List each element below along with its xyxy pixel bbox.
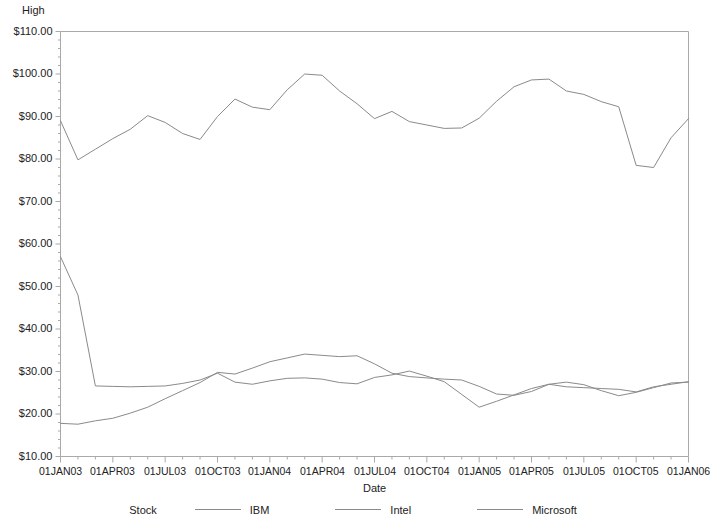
x-axis-tick-label: 01JUL04 bbox=[354, 465, 396, 477]
x-axis-tick-label: 01OCT05 bbox=[613, 465, 659, 477]
legend-line-swatch bbox=[195, 509, 241, 510]
y-axis-tick-label: $80.00 bbox=[0, 152, 53, 164]
legend-entry-microsoft[interactable]: Microsoft bbox=[477, 504, 577, 516]
y-axis-tick-label: $20.00 bbox=[0, 407, 53, 419]
x-axis-tick-label: 01APR04 bbox=[300, 465, 345, 477]
legend-title: Stock bbox=[129, 504, 157, 516]
y-axis-tick-label: $70.00 bbox=[0, 195, 53, 207]
legend-entry-label: IBM bbox=[250, 504, 270, 516]
x-axis-tick-label: 01JUL05 bbox=[563, 465, 605, 477]
legend-entry-intel[interactable]: Intel bbox=[335, 504, 411, 516]
y-axis-tick-label: $60.00 bbox=[0, 237, 53, 249]
legend-line-swatch bbox=[335, 509, 381, 510]
x-axis-tick-label: 01JAN06 bbox=[667, 465, 710, 477]
x-axis-tick-label: 01OCT04 bbox=[404, 465, 450, 477]
x-axis-tick-label: 01JAN05 bbox=[458, 465, 501, 477]
legend-entry-label: Microsoft bbox=[532, 504, 577, 516]
x-axis-tick-label: 01JAN03 bbox=[39, 465, 82, 477]
series-line-ibm bbox=[61, 74, 689, 168]
y-axis-tick-label: $40.00 bbox=[0, 322, 53, 334]
legend-entry-label: Intel bbox=[390, 504, 411, 516]
y-axis-tick-label: $50.00 bbox=[0, 280, 53, 292]
x-axis-tick-label: 01JUL03 bbox=[144, 465, 186, 477]
y-axis-tick-label: $110.00 bbox=[0, 25, 53, 37]
x-axis-tick-label: 01APR03 bbox=[90, 465, 135, 477]
x-axis-tick-label: 01APR05 bbox=[509, 465, 554, 477]
y-axis-tick-label: $90.00 bbox=[0, 110, 53, 122]
legend-line-swatch bbox=[477, 509, 523, 510]
x-axis-title: Date bbox=[363, 482, 386, 494]
series-line-intel bbox=[61, 354, 689, 424]
y-axis-tick-label: $30.00 bbox=[0, 365, 53, 377]
legend-entry-ibm[interactable]: IBM bbox=[195, 504, 270, 516]
x-axis-tick-label: 01OCT03 bbox=[195, 465, 241, 477]
series-line-microsoft bbox=[61, 257, 689, 407]
x-axis-tick-label: 01JAN04 bbox=[248, 465, 291, 477]
legend: Stock IBMIntelMicrosoft bbox=[0, 498, 706, 521]
y-axis-tick-label: $10.00 bbox=[0, 450, 53, 462]
y-axis-tick-label: $100.00 bbox=[0, 67, 53, 79]
